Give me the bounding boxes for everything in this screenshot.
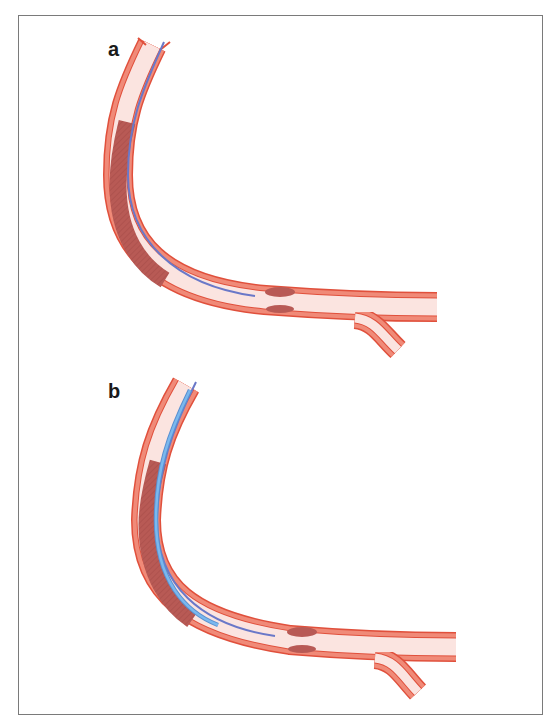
vessel-diagram xyxy=(0,0,556,727)
panel-a-vessel xyxy=(118,38,437,350)
panel-b-vessel xyxy=(146,385,456,692)
